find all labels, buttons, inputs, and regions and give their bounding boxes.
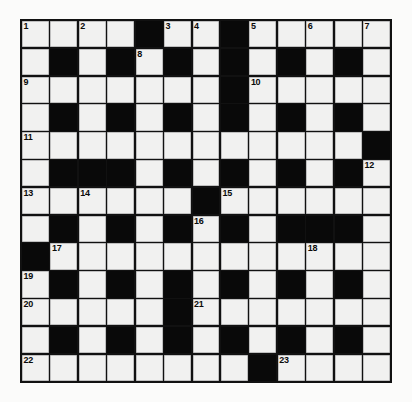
grid-cell[interactable] [306,132,333,158]
grid-cell[interactable]: 9 [22,77,49,103]
grid-cell[interactable] [22,104,49,130]
grid-cell[interactable]: 17 [50,243,77,269]
grid-cell[interactable] [136,104,163,130]
grid-cell[interactable] [193,77,220,103]
crossword-grid[interactable]: 1234567891011121314151617181920212223 [20,19,392,383]
grid-cell[interactable] [335,188,362,214]
grid-cell[interactable]: 18 [306,243,333,269]
grid-cell[interactable] [363,188,390,214]
grid-cell[interactable] [221,243,248,269]
grid-cell[interactable]: 8 [136,49,163,75]
grid-cell[interactable] [193,160,220,186]
grid-cell[interactable]: 22 [22,355,49,381]
grid-cell[interactable] [363,327,390,353]
grid-cell[interactable] [79,243,106,269]
grid-cell[interactable] [79,104,106,130]
grid-cell[interactable] [306,299,333,325]
grid-cell[interactable] [107,188,134,214]
grid-cell[interactable]: 10 [249,77,276,103]
grid-cell[interactable] [278,243,305,269]
grid-cell[interactable]: 14 [79,188,106,214]
grid-cell[interactable] [278,77,305,103]
grid-cell[interactable] [278,188,305,214]
grid-cell[interactable] [164,132,191,158]
grid-cell[interactable] [193,49,220,75]
grid-cell[interactable] [363,104,390,130]
grid-cell[interactable] [306,355,333,381]
grid-cell[interactable] [136,132,163,158]
grid-cell[interactable]: 15 [221,188,248,214]
grid-cell[interactable] [136,327,163,353]
grid-cell[interactable] [249,160,276,186]
grid-cell[interactable] [50,77,77,103]
grid-cell[interactable] [136,188,163,214]
grid-cell[interactable] [363,299,390,325]
grid-cell[interactable] [193,355,220,381]
grid-cell[interactable] [164,355,191,381]
grid-cell[interactable]: 5 [249,21,276,47]
grid-cell[interactable]: 21 [193,299,220,325]
grid-cell[interactable] [22,49,49,75]
grid-cell[interactable] [193,271,220,297]
grid-cell[interactable] [249,49,276,75]
grid-cell[interactable] [50,299,77,325]
grid-cell[interactable] [79,216,106,242]
grid-cell[interactable]: 1 [22,21,49,47]
grid-cell[interactable] [306,271,333,297]
grid-cell[interactable] [136,160,163,186]
grid-cell[interactable] [363,271,390,297]
grid-cell[interactable] [50,21,77,47]
grid-cell[interactable] [136,271,163,297]
grid-cell[interactable] [249,327,276,353]
grid-cell[interactable] [193,132,220,158]
grid-cell[interactable] [306,49,333,75]
grid-cell[interactable]: 20 [22,299,49,325]
grid-cell[interactable] [249,243,276,269]
grid-cell[interactable] [363,77,390,103]
grid-cell[interactable] [79,327,106,353]
grid-cell[interactable]: 23 [278,355,305,381]
grid-cell[interactable] [335,21,362,47]
grid-cell[interactable] [249,271,276,297]
grid-cell[interactable] [50,355,77,381]
grid-cell[interactable] [249,104,276,130]
grid-cell[interactable] [335,243,362,269]
grid-cell[interactable] [249,188,276,214]
grid-cell[interactable] [335,77,362,103]
grid-cell[interactable] [136,77,163,103]
grid-cell[interactable]: 2 [79,21,106,47]
grid-cell[interactable] [136,355,163,381]
grid-cell[interactable] [363,216,390,242]
grid-cell[interactable] [221,355,248,381]
grid-cell[interactable] [107,77,134,103]
grid-cell[interactable] [335,299,362,325]
grid-cell[interactable] [107,299,134,325]
grid-cell[interactable]: 12 [363,160,390,186]
grid-cell[interactable] [306,327,333,353]
grid-cell[interactable]: 19 [22,271,49,297]
grid-cell[interactable]: 11 [22,132,49,158]
grid-cell[interactable] [164,243,191,269]
grid-cell[interactable] [193,243,220,269]
grid-cell[interactable] [79,49,106,75]
grid-cell[interactable] [221,299,248,325]
grid-cell[interactable] [278,132,305,158]
grid-cell[interactable] [107,355,134,381]
grid-cell[interactable] [306,104,333,130]
grid-cell[interactable] [278,21,305,47]
grid-cell[interactable] [193,104,220,130]
grid-cell[interactable]: 4 [193,21,220,47]
grid-cell[interactable] [335,355,362,381]
grid-cell[interactable]: 3 [164,21,191,47]
grid-cell[interactable] [22,327,49,353]
grid-cell[interactable] [22,160,49,186]
grid-cell[interactable]: 7 [363,21,390,47]
grid-cell[interactable] [335,132,362,158]
grid-cell[interactable] [249,299,276,325]
grid-cell[interactable] [306,160,333,186]
grid-cell[interactable] [107,132,134,158]
grid-cell[interactable] [249,132,276,158]
grid-cell[interactable]: 16 [193,216,220,242]
grid-cell[interactable] [136,216,163,242]
grid-cell[interactable] [50,132,77,158]
